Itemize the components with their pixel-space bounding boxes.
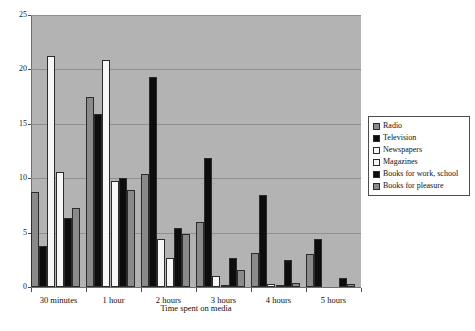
- chart-legend: RadioTelevisionNewspapersMagazinesBooks …: [368, 116, 470, 196]
- x-axis-tick-mark: [251, 288, 252, 292]
- x-axis-tick-mark: [361, 288, 362, 292]
- bar: [182, 234, 190, 287]
- bar: [229, 258, 237, 287]
- bar: [259, 195, 267, 287]
- legend-swatch-icon: [373, 147, 380, 154]
- legend-item-label: Magazines: [383, 158, 418, 166]
- bar: [47, 56, 55, 287]
- bar: [166, 258, 174, 287]
- bar: [111, 181, 119, 287]
- bar: [86, 97, 94, 287]
- legend-item[interactable]: Radio: [373, 120, 466, 132]
- bar: [102, 60, 110, 287]
- media-time-bar-chart: 0510152025 30 minutes1 hour2 hours3 hour…: [0, 0, 475, 331]
- bar: [292, 283, 300, 287]
- bar: [72, 208, 80, 287]
- x-axis-tick-mark: [31, 288, 32, 292]
- bar: [284, 260, 292, 287]
- x-axis-title: Time spent on media: [31, 303, 361, 313]
- bar: [119, 178, 127, 287]
- bar: [64, 218, 72, 287]
- bar: [204, 158, 212, 287]
- y-axis-tick-label: 20: [19, 65, 27, 73]
- x-axis-tick-mark: [86, 288, 87, 292]
- bar: [196, 222, 204, 287]
- legend-item[interactable]: Television: [373, 132, 466, 144]
- bar: [56, 172, 64, 287]
- y-axis-tick-label: 25: [19, 11, 27, 19]
- bar: [212, 276, 220, 287]
- bar: [237, 270, 245, 287]
- bar: [347, 284, 355, 287]
- bar: [149, 77, 157, 287]
- legend-item[interactable]: Books for work, school: [373, 168, 466, 180]
- bar: [314, 239, 322, 287]
- y-axis-tick-label: 5: [23, 229, 27, 237]
- bar: [141, 174, 149, 287]
- x-axis-tick-mark: [196, 288, 197, 292]
- bar: [251, 253, 259, 287]
- bars-layer: [31, 15, 361, 288]
- bar: [31, 192, 39, 287]
- legend-item[interactable]: Magazines: [373, 156, 466, 168]
- bar: [174, 228, 182, 287]
- bar: [339, 278, 347, 287]
- x-axis-tick-mark: [306, 288, 307, 292]
- legend-swatch-icon: [373, 159, 380, 166]
- y-axis-tick-label: 0: [23, 283, 27, 291]
- plot-frame: 0510152025 30 minutes1 hour2 hours3 hour…: [31, 15, 361, 288]
- x-axis-tick-mark: [141, 288, 142, 292]
- legend-swatch-icon: [373, 171, 380, 178]
- legend-item[interactable]: Books for pleasure: [373, 180, 466, 192]
- legend-item-label: Newspapers: [383, 146, 422, 154]
- legend-item-label: Television: [383, 134, 416, 142]
- legend-swatch-icon: [373, 123, 380, 130]
- bar: [267, 284, 275, 287]
- bar: [306, 254, 314, 287]
- legend-item[interactable]: Newspapers: [373, 144, 466, 156]
- legend-swatch-icon: [373, 135, 380, 142]
- bar: [157, 239, 165, 287]
- bar: [127, 190, 135, 287]
- legend-item-label: Books for work, school: [383, 170, 458, 178]
- legend-item-label: Radio: [383, 122, 402, 130]
- legend-item-label: Books for pleasure: [383, 182, 443, 190]
- y-axis-tick-label: 10: [19, 174, 27, 182]
- bar: [221, 285, 229, 287]
- bar: [39, 246, 47, 287]
- bar: [94, 114, 102, 287]
- bar: [276, 285, 284, 287]
- legend-swatch-icon: [373, 183, 380, 190]
- y-axis-tick-label: 15: [19, 120, 27, 128]
